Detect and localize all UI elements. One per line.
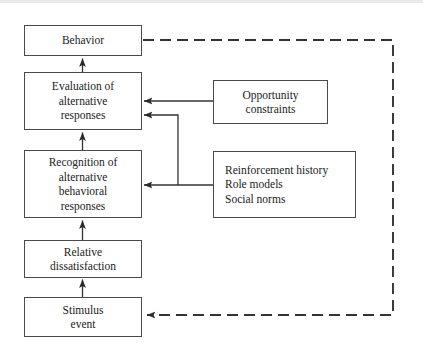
node-behavior[interactable]: Behavior bbox=[24, 25, 142, 56]
node-reinforcement-sources[interactable]: Reinforcement history Role models Social… bbox=[213, 151, 356, 218]
node-relative-dissatisfaction-label: Relative dissatisfaction bbox=[50, 245, 116, 274]
node-relative-dissatisfaction[interactable]: Relative dissatisfaction bbox=[24, 240, 142, 278]
node-reinforcement-sources-label: Reinforcement history Role models Social… bbox=[225, 163, 328, 207]
node-stimulus-event[interactable]: Stimulus event bbox=[24, 297, 142, 337]
node-stimulus-event-label: Stimulus event bbox=[63, 303, 104, 332]
node-evaluation-label: Evaluation of alternative responses bbox=[52, 79, 114, 123]
wire-reinforcement-to-evaluation bbox=[144, 115, 178, 185]
node-evaluation[interactable]: Evaluation of alternative responses bbox=[24, 72, 142, 130]
node-opportunity-constraints[interactable]: Opportunity constraints bbox=[213, 80, 328, 124]
node-opportunity-constraints-label: Opportunity constraints bbox=[242, 88, 298, 117]
node-recognition[interactable]: Recognition of alternative behavioral re… bbox=[24, 150, 142, 218]
node-behavior-label: Behavior bbox=[62, 33, 104, 48]
node-recognition-label: Recognition of alternative behavioral re… bbox=[49, 155, 118, 213]
flowchart-canvas: Behavior Evaluation of alternative respo… bbox=[0, 0, 423, 360]
